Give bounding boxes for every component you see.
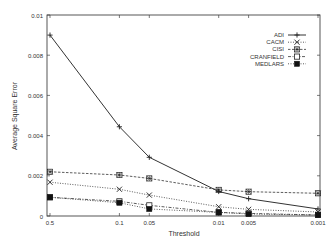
x-tick-label: 0.01 <box>213 220 225 226</box>
legend-label: ADI <box>274 32 284 38</box>
legend: ADICACMCISICRANFIELDMEDLARS <box>250 32 306 67</box>
legend-item-adi: ADI <box>274 32 306 38</box>
x-tick-label: 0.05 <box>143 220 155 226</box>
series-cacm <box>47 180 320 215</box>
y-tick-label: 0.008 <box>28 53 44 59</box>
y-tick-label: 0.004 <box>28 133 44 139</box>
x-tick-label: 0.005 <box>241 220 257 226</box>
legend-item-medlars: MEDLARS <box>255 61 306 67</box>
x-tick-label: 0.001 <box>310 220 326 226</box>
y-tick-label: 0.01 <box>31 13 43 19</box>
series-medlars <box>47 195 320 218</box>
legend-item-cranfield: CRANFIELD <box>250 54 306 60</box>
series-cisi <box>47 169 320 196</box>
legend-item-cisi: CISI <box>272 46 306 52</box>
legend-label: CRANFIELD <box>250 54 285 60</box>
y-tick-label: 0 <box>40 214 44 220</box>
line-chart: 00.0020.0040.0060.0080.010.50.10.050.010… <box>0 0 336 246</box>
y-tick-label: 0.002 <box>28 173 44 179</box>
x-axis-label: Threshold <box>168 230 199 237</box>
chart-canvas: 00.0020.0040.0060.0080.010.50.10.050.010… <box>0 0 336 246</box>
legend-label: CACM <box>266 39 284 45</box>
y-tick-label: 0.006 <box>28 93 44 99</box>
y-axis-label: Average Square Error <box>11 81 19 150</box>
legend-label: CISI <box>272 46 284 52</box>
x-tick-label: 0.5 <box>46 220 55 226</box>
legend-label: MEDLARS <box>255 61 284 67</box>
x-tick-label: 0.1 <box>115 220 124 226</box>
legend-item-cacm: CACM <box>266 39 306 45</box>
